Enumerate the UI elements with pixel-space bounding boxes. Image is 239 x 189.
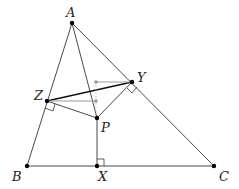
label-x: X: [97, 169, 108, 184]
label-y: Y: [137, 70, 147, 85]
label-p: P: [100, 120, 110, 135]
label-z: Z: [33, 88, 44, 103]
segment-pz: [47, 101, 97, 118]
right-angle-y: [127, 87, 137, 93]
side-ac: [72, 23, 214, 166]
gray-point-2: [94, 99, 98, 103]
label-c: C: [219, 169, 229, 184]
gray-point-1: [94, 80, 98, 84]
point-x: [95, 164, 99, 168]
segment-zy: [47, 82, 132, 101]
geometry-diagram: A B C X Y Z P: [0, 0, 239, 189]
label-a: A: [65, 5, 75, 20]
point-p: [95, 116, 99, 120]
point-y: [130, 80, 134, 84]
segment-py: [97, 82, 132, 118]
point-z: [45, 99, 49, 103]
point-b: [25, 164, 29, 168]
point-a: [70, 21, 74, 25]
segment-ap: [72, 23, 97, 118]
point-c: [212, 164, 216, 168]
label-b: B: [11, 169, 22, 184]
